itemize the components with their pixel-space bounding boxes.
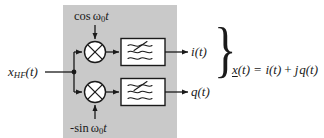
output-i-arg: (t) (195, 44, 207, 59)
input-signal-label: xHF(t) (8, 65, 38, 80)
equation-j: j (295, 62, 299, 77)
iq-demodulator-diagram: cosω0t -sinω0t xHF(t) i(t) q(t) } x(t)=i… (0, 0, 324, 138)
output-q-arg: (t) (198, 84, 210, 99)
input-arg: (t) (26, 64, 38, 79)
lo-bottom-omega: ω (91, 121, 99, 135)
output-q-label: q(t) (191, 85, 210, 98)
output-i-label: i(t) (191, 45, 207, 58)
equation-term1-arg: (t) (269, 62, 281, 77)
input-subscript: HF (14, 70, 26, 80)
gray-panel (63, 5, 177, 138)
equation-equals: = (254, 62, 261, 77)
equation-lhs-arg: (t) (238, 62, 250, 77)
equation-plus: + (284, 62, 291, 77)
lo-bottom-function: -sin (70, 121, 89, 135)
lo-top-omega: ω (93, 9, 101, 23)
complex-envelope-equation: x(t)=i(t)+jq(t) (232, 63, 318, 76)
lo-top-time: t (105, 9, 108, 23)
lo-top-label: cosω0t (74, 10, 109, 24)
lo-bottom-label: -sinω0t (70, 122, 107, 136)
lo-top-function: cos (74, 9, 91, 23)
lo-bottom-time: t (103, 121, 106, 135)
equation-term2-arg: (t) (306, 62, 318, 77)
